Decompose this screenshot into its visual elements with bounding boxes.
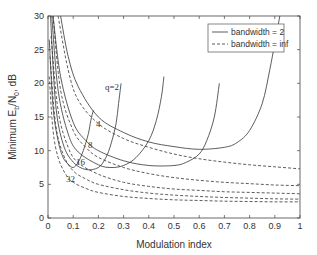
y-tick-label: 5 bbox=[39, 179, 44, 189]
x-tick-label: 0.5 bbox=[168, 221, 181, 231]
chart: q=2481632 00.10.20.30.40.50.60.70.80.91 … bbox=[0, 0, 317, 255]
y-axis-label: Minimum Eb/N0, dB bbox=[7, 74, 20, 160]
x-tick-label: 0.4 bbox=[143, 221, 156, 231]
curve-label: 16 bbox=[76, 157, 86, 167]
y-label-unit: , dB bbox=[7, 74, 18, 92]
legend: bandwidth = 2bandwidth = inf bbox=[208, 24, 289, 52]
y-tick-label: 20 bbox=[34, 78, 44, 88]
curve-label: 8 bbox=[88, 140, 93, 150]
x-tick-label: 0 bbox=[45, 221, 50, 231]
y-tick-label: 30 bbox=[34, 11, 44, 21]
y-tick-label: 15 bbox=[34, 112, 44, 122]
curve-label: q=2 bbox=[105, 82, 119, 92]
x-tick-label: 0.7 bbox=[218, 221, 231, 231]
x-tick-label: 0.2 bbox=[92, 221, 105, 231]
x-tick-label: 1 bbox=[297, 221, 302, 231]
y-tick-label: 0 bbox=[39, 213, 44, 223]
legend-label: bandwidth = inf bbox=[231, 39, 289, 49]
y-tick-label: 25 bbox=[34, 45, 44, 55]
x-tick-label: 0.1 bbox=[67, 221, 80, 231]
curve-annotations: q=2481632 bbox=[66, 82, 119, 184]
x-tick-label: 0.9 bbox=[269, 221, 282, 231]
x-tick-label: 0.8 bbox=[243, 221, 256, 231]
y-label-slash: /N bbox=[7, 96, 18, 106]
y-label-prefix: Minimum E bbox=[7, 109, 18, 159]
curve-label: 32 bbox=[66, 174, 75, 184]
series-line bbox=[50, 56, 300, 199]
x-tick-label: 0.3 bbox=[117, 221, 130, 231]
legend-label: bandwidth = 2 bbox=[231, 27, 284, 37]
y-tick-label: 10 bbox=[34, 146, 44, 156]
x-axis-label: Modulation index bbox=[136, 239, 212, 250]
curve-label: 4 bbox=[96, 119, 101, 129]
x-tick-label: 0.6 bbox=[193, 221, 206, 231]
